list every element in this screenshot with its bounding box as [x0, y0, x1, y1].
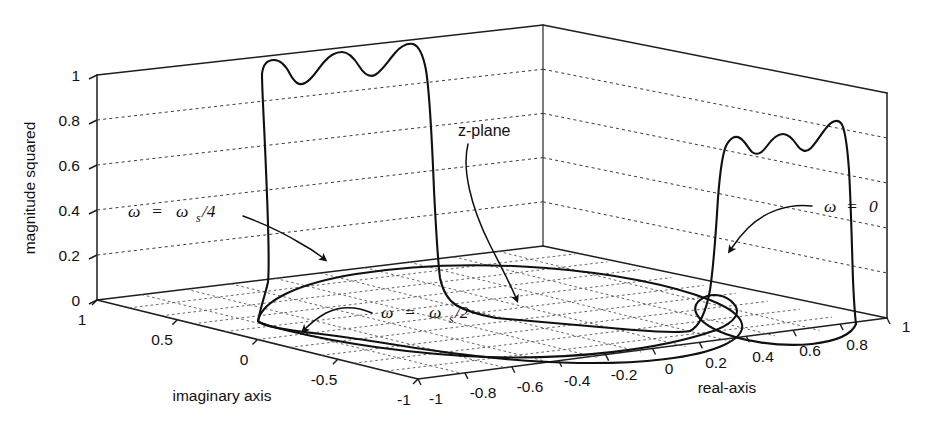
tick-mag-0.4 — [89, 210, 97, 214]
mag-tick-label-0.4: 0.4 — [58, 202, 80, 219]
gridline-right-0.6 — [543, 113, 887, 183]
gridline-left-0.2 — [97, 202, 543, 255]
curve-floor-return — [258, 321, 716, 358]
real-tick-label--0.8: -0.8 — [470, 384, 497, 401]
tick-imag--0.5 — [333, 359, 338, 364]
real-tick-label-0: 0 — [665, 360, 674, 377]
real-tick-label-0.2: 0.2 — [705, 354, 727, 371]
omega-quarter-equals: = — [151, 201, 163, 221]
real-tick-label--0.2: -0.2 — [611, 366, 638, 383]
omega-zero-value: 0 — [869, 196, 878, 216]
magnitude-axis-title: magnitude squared — [21, 122, 38, 255]
curve-front-loop — [695, 295, 856, 345]
omega-half-value: /2 — [454, 302, 469, 322]
floor-grid-v-9 — [498, 251, 819, 330]
imag-tick-label--1: -1 — [397, 391, 411, 408]
omega-half-omega: ω — [381, 302, 393, 322]
omega-quarter-subscript: s — [196, 211, 201, 225]
tick-imag-0 — [253, 340, 258, 345]
omega-half-leader — [305, 308, 372, 329]
gridline-left-0.4 — [97, 158, 543, 210]
imag-tick-label-0.5: 0.5 — [151, 331, 173, 348]
omega-zero-label: ω = 0 — [824, 196, 878, 216]
z-plane-label: z-plane — [458, 122, 511, 139]
imag-tick-label-0: 0 — [240, 351, 249, 368]
mag-tick-label-0.2: 0.2 — [58, 247, 80, 264]
curve-right-lobe — [690, 121, 856, 331]
mag-tick-label-0.8: 0.8 — [58, 112, 80, 129]
tick-imag--1 — [413, 379, 418, 384]
omega-half-equals: = — [404, 302, 416, 322]
omega-zero-leader — [731, 205, 812, 249]
annotation-leaders — [243, 144, 812, 329]
figure-panel: 1 0.8 0.6 0.4 0.2 0 magnitude squared 1 … — [0, 0, 932, 427]
tick-mag-0.2 — [89, 255, 97, 259]
z-plane-leader — [466, 144, 516, 298]
tick-mag-0.8 — [89, 120, 97, 124]
real-tick-label-1: 1 — [902, 318, 911, 335]
unit-circle-trace — [258, 265, 742, 363]
tick-real--0.8 — [465, 373, 468, 379]
gridline-left-0.8 — [97, 69, 543, 120]
curve-floor-run — [496, 318, 690, 332]
magnitude-axis-labels: 1 0.8 0.6 0.4 0.2 0 magnitude squared — [21, 67, 80, 309]
tick-mag-1 — [89, 75, 97, 79]
tick-real-0 — [653, 349, 656, 355]
imag-tick-label--0.5: -0.5 — [311, 371, 338, 388]
tick-real-0.8 — [840, 324, 843, 330]
tick-imag-0.5 — [172, 320, 177, 325]
tick-real-0.2 — [699, 342, 702, 348]
floor-back-right-edge — [543, 246, 887, 318]
magnitude-squared-curve — [258, 44, 856, 358]
tick-real-0.6 — [793, 330, 796, 336]
floor-grid-u-5 — [258, 286, 704, 340]
omega-quarter-omega-s: ω — [176, 201, 188, 221]
annotation-labels: z-plane ω = 0 ω = ω s /4 ω = ω s /2 — [128, 122, 878, 326]
real-tick-label--1: -1 — [429, 390, 443, 407]
real-tick-label-0.8: 0.8 — [846, 336, 868, 353]
omega-quarter-leader — [243, 216, 323, 258]
tick-real--0.6 — [512, 367, 515, 373]
mag-tick-label-1: 1 — [71, 67, 80, 84]
wall-top-right-edge — [543, 25, 887, 93]
imag-tick-label-1: 1 — [78, 311, 87, 328]
gridline-right-0.4 — [543, 158, 887, 228]
unit-circle-ellipse — [258, 265, 742, 363]
plot-svg: 1 0.8 0.6 0.4 0.2 0 magnitude squared 1 … — [0, 0, 932, 427]
omega-quarter-omega: ω — [128, 201, 140, 221]
gridline-right-0.8 — [543, 69, 887, 138]
omega-zero-equals: = — [846, 196, 858, 216]
curve-left-lobe — [258, 44, 496, 321]
omega-half-subscript: s — [449, 312, 454, 326]
omega-half-omega-s: ω — [429, 302, 441, 322]
tick-mag-0.6 — [89, 165, 97, 169]
omega-quarter-value: /4 — [201, 201, 216, 221]
real-tick-label--0.6: -0.6 — [517, 378, 544, 395]
real-axis-title: real-axis — [698, 379, 757, 396]
mag-tick-label-0: 0 — [71, 292, 80, 309]
wall-gridlines — [97, 69, 887, 273]
imaginary-axis-labels: 1 0.5 0 -0.5 -1 imaginary axis — [78, 311, 411, 408]
real-tick-label-0.6: 0.6 — [799, 342, 821, 359]
tick-real--0.2 — [606, 355, 609, 361]
tick-real-1 — [887, 318, 890, 324]
real-tick-label-0.4: 0.4 — [752, 348, 774, 365]
imaginary-axis-title: imaginary axis — [172, 387, 271, 404]
mag-tick-label-0.6: 0.6 — [58, 157, 80, 174]
real-tick-label--0.4: -0.4 — [564, 372, 591, 389]
tick-real--1 — [418, 379, 421, 385]
omega-zero-omega: ω — [824, 196, 836, 216]
floor-grid-v-3 — [231, 284, 552, 363]
